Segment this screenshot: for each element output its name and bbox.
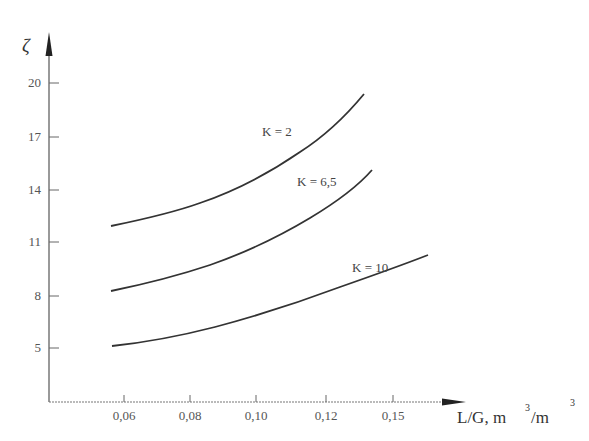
x-tick-label: 0,10 <box>245 408 268 423</box>
y-tick-label: 20 <box>28 75 41 90</box>
x-axis-title-sup1: 3 <box>525 402 530 413</box>
x-tick-label: 0,06 <box>113 408 136 423</box>
curve-label-k2: K = 2 <box>262 124 292 139</box>
x-axis-title-sup2: 3 <box>570 397 575 408</box>
x-axis-title: L/G, m 3 /m 3 <box>457 397 575 427</box>
curve-label-k10: K = 10 <box>352 260 388 275</box>
y-tick-label: 8 <box>35 288 42 303</box>
y-tick-label: 14 <box>28 182 42 197</box>
y-tick-label: 11 <box>28 234 41 249</box>
y-tick-label: 17 <box>28 129 42 144</box>
curve-k2 <box>111 94 364 226</box>
x-axis-title-mid: /m <box>531 408 549 427</box>
y-ticks: 20 17 14 11 8 5 <box>28 75 59 355</box>
y-tick-label: 5 <box>35 340 42 355</box>
svg-text:L/G, m: L/G, m <box>457 408 506 427</box>
chart: 20 17 14 11 8 5 0,06 0,08 0,10 0,12 0,15… <box>0 0 589 441</box>
x-tick-label: 0,08 <box>179 408 202 423</box>
x-axis-title-main: L/G, m <box>457 408 506 427</box>
x-ticks: 0,06 0,08 0,10 0,12 0,15 <box>113 395 405 423</box>
y-axis-title: ζ <box>22 35 31 56</box>
y-axis-arrow-icon <box>46 32 53 56</box>
x-axis-arrow-icon <box>442 399 466 406</box>
curve-label-k6-5: K = 6,5 <box>297 174 336 189</box>
x-tick-label: 0,12 <box>315 408 338 423</box>
x-tick-label: 0,15 <box>382 408 405 423</box>
